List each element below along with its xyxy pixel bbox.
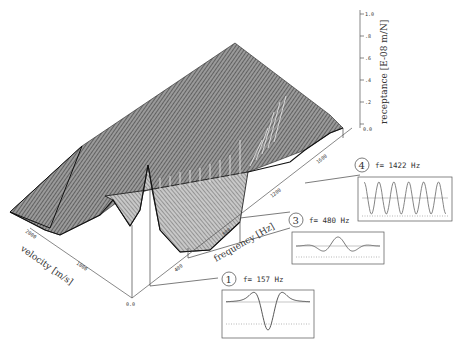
y-tick: 1000 [75, 260, 88, 272]
receptance-surface-figure: 1.0 .8 .6 .4 .2 0.0 0.0 1000 2000 400 80… [0, 0, 457, 343]
y-axis-title: velocity [m/s] [18, 243, 75, 287]
z-tick: .4 [365, 77, 371, 83]
inset-label: f= 480 Hz [309, 216, 350, 225]
z-tick: 1.0 [365, 11, 374, 17]
x-tick: 400 [173, 262, 184, 272]
inset-label: f= 157 Hz [243, 275, 284, 284]
z-tick: .6 [365, 55, 371, 61]
z-tick: 0.0 [363, 126, 372, 132]
x-tick: 1200 [269, 187, 282, 199]
z-tick: .8 [365, 33, 371, 39]
z-axis-title: receptance [E-08 m/N] [379, 20, 389, 124]
y-tick: 0.0 [126, 301, 135, 307]
inset-1: 1 f= 157 Hz [222, 272, 314, 338]
inset-number: 3 [293, 215, 299, 226]
z-tick: .2 [365, 99, 371, 105]
inset-number: 1 [226, 274, 232, 285]
inset-4: 4 f= 1422 Hz [355, 158, 452, 221]
inset-frame [222, 290, 314, 338]
y-tick: 2000 [24, 228, 37, 240]
inset-number: 4 [359, 160, 365, 171]
inset-label: f= 1422 Hz [375, 161, 420, 170]
x-tick: 1600 [315, 153, 328, 165]
